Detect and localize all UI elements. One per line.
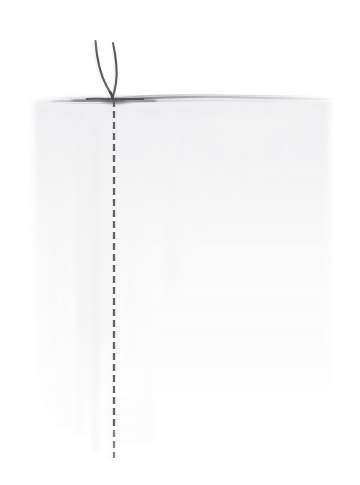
- paper-texture: [34, 100, 334, 460]
- seedling-illustration: [0, 0, 360, 485]
- drawing-canvas: Seedling sprout with dashed taproot: [0, 0, 360, 485]
